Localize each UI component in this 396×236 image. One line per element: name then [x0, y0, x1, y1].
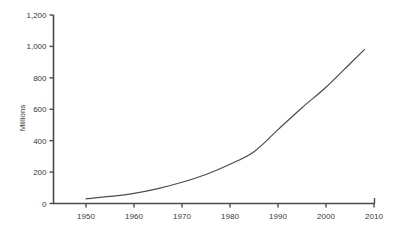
x-axis-tick-label: 1970	[173, 212, 191, 221]
y-axis-tick-label: 1,000	[26, 42, 47, 51]
x-axis-tick-label: 1950	[77, 212, 95, 221]
y-axis-title: Millions	[18, 105, 27, 132]
chart-canvas: 02004006008001,0001,200 1950196019701980…	[0, 0, 396, 236]
y-axis-tick-label: 1,200	[26, 11, 47, 20]
x-axis-tick-label: 1990	[269, 212, 287, 221]
y-axis-tick-label: 600	[33, 105, 47, 114]
x-axis-tick-label: 2010	[365, 212, 383, 221]
x-axis-tick-label: 1980	[221, 212, 239, 221]
x-axis-tick-label: 1960	[125, 212, 143, 221]
y-axis-tick-label: 0	[42, 200, 47, 209]
x-axis-tick-label: 2000	[317, 212, 335, 221]
y-axis-tick-label: 800	[33, 74, 47, 83]
y-axis-tick-label: 400	[33, 137, 47, 146]
chart-background	[0, 0, 396, 236]
line-chart: 02004006008001,0001,200 1950196019701980…	[0, 0, 396, 236]
y-axis-tick-label: 200	[33, 168, 47, 177]
